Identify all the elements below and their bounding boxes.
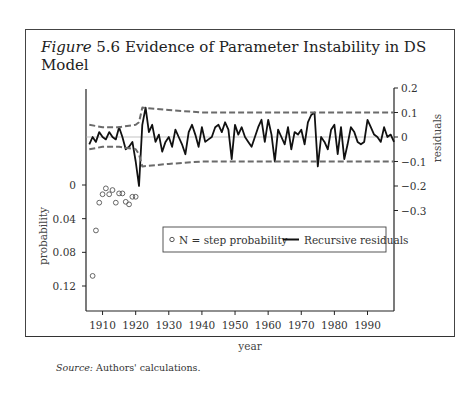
y-right-tick-label: 0.2	[401, 82, 418, 94]
recursive-residuals-line	[89, 108, 394, 186]
probability-point	[94, 228, 99, 233]
y-right-tick-label: −0.2	[401, 180, 427, 192]
x-tick-label: 1910	[89, 319, 116, 331]
x-tick-label: 1970	[288, 319, 315, 331]
source-note: Source: Authors' calculations.	[56, 362, 201, 373]
chart: 191019201930194019501960197019801990year…	[0, 0, 476, 410]
probability-point	[97, 200, 102, 205]
source-text: Authors' calculations.	[96, 362, 200, 373]
probability-point	[107, 192, 112, 197]
y-right-tick-label: 0	[401, 131, 408, 143]
y-left-tick-label: 0	[69, 179, 76, 191]
probability-point	[110, 188, 115, 193]
source-label: Source:	[56, 362, 93, 373]
y-right-axis-label: residuals	[431, 114, 443, 162]
legend-item-probability: N = step probability	[179, 234, 288, 246]
probability-point	[127, 202, 132, 207]
y-right-tick-label: 0.1	[401, 107, 418, 119]
legend-item-residuals: Recursive residuals	[304, 234, 408, 246]
y-right-tick-label: −0.3	[401, 205, 427, 217]
x-tick-label: 1920	[122, 319, 149, 331]
probability-point	[113, 200, 118, 205]
x-axis-label: year	[237, 340, 262, 352]
y-right-tick-label: −0.1	[401, 156, 427, 168]
y-left-tick-label: 0.12	[53, 280, 76, 292]
y-left-tick-label: 0.08	[53, 246, 76, 258]
x-tick-label: 1960	[255, 319, 282, 331]
x-tick-label: 1990	[354, 319, 381, 331]
x-tick-label: 1950	[222, 319, 249, 331]
probability-point	[120, 191, 125, 196]
x-tick-label: 1940	[189, 319, 216, 331]
probability-point	[103, 186, 108, 191]
y-left-axis-label: probability	[37, 207, 49, 265]
upper-bound-line	[89, 108, 394, 128]
x-tick-label: 1980	[321, 319, 348, 331]
probability-point	[100, 192, 105, 197]
x-tick-label: 1930	[155, 319, 182, 331]
probability-point	[90, 274, 95, 279]
y-left-tick-label: 0.04	[53, 213, 77, 225]
probability-point	[133, 194, 138, 199]
probability-point	[123, 199, 128, 204]
